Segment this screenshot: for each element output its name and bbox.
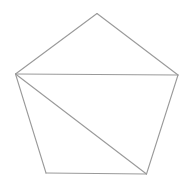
pentagon-diagonals (16, 74, 179, 174)
edge-bottom-left-left (16, 74, 47, 173)
pentagon-diagram (0, 0, 191, 186)
diagonal-left-bottom-right (16, 74, 147, 174)
pentagon-edges (16, 14, 179, 175)
edge-right-bottom-right (147, 75, 179, 174)
edge-bottom-right-bottom-left (46, 173, 147, 174)
edge-top-right (97, 14, 178, 76)
diagonal-left-right (16, 74, 179, 75)
pentagon-svg (0, 0, 191, 186)
edge-left-top (16, 14, 98, 75)
